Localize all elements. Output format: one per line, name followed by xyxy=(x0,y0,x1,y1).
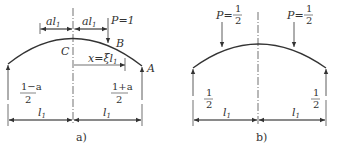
svg-text:2: 2 xyxy=(306,15,312,26)
span-right-b-label: l1 xyxy=(292,106,300,120)
load-label-p1: P=1 xyxy=(110,14,135,27)
caption-a: a) xyxy=(76,131,87,144)
svg-text:1: 1 xyxy=(206,87,212,98)
dim-al-left-label: al1 xyxy=(46,15,61,29)
caption-b: b) xyxy=(256,131,267,144)
span-right-a-label: l1 xyxy=(103,106,111,120)
svg-text:2: 2 xyxy=(116,94,122,105)
reaction-left-b-fraction: 1 2 xyxy=(204,87,213,110)
svg-text:1−a: 1−a xyxy=(21,81,42,92)
arch-curve-b xyxy=(193,44,326,68)
svg-text:1: 1 xyxy=(313,87,319,98)
svg-text:1: 1 xyxy=(235,3,241,14)
svg-text:2: 2 xyxy=(313,99,319,110)
point-c-label: C xyxy=(61,45,70,58)
arch-influence-diagram: al1 al1 P=1 B C A x=ξl1 1−a 2 1+a 2 xyxy=(0,0,355,152)
svg-text:2: 2 xyxy=(235,15,241,26)
point-b-label: B xyxy=(115,37,124,50)
svg-text:1: 1 xyxy=(306,3,312,14)
reaction-left-a-fraction: 1−a 2 xyxy=(20,81,42,105)
load-left-b-prefix: P= xyxy=(215,9,233,22)
panel-a: al1 al1 P=1 B C A x=ξl1 1−a 2 1+a 2 xyxy=(8,8,155,144)
load-left-b-fraction: 1 2 xyxy=(233,3,242,26)
span-left-b-label: l1 xyxy=(223,106,231,120)
load-right-b-prefix: P= xyxy=(286,9,304,22)
reaction-right-b-fraction: 1 2 xyxy=(311,87,320,110)
svg-text:1+a: 1+a xyxy=(112,81,133,92)
reaction-right-a-fraction: 1+a 2 xyxy=(111,81,133,105)
span-left-a-label: l1 xyxy=(38,106,46,120)
load-right-b-fraction: 1 2 xyxy=(304,3,313,26)
svg-text:2: 2 xyxy=(206,99,212,110)
point-a-label: A xyxy=(146,62,155,75)
svg-text:2: 2 xyxy=(25,94,31,105)
dim-al-right-label: al1 xyxy=(82,15,97,29)
panel-b: P= 1 2 P= 1 2 1 2 1 2 xyxy=(193,3,326,144)
x-dim-label: x=ξl1 xyxy=(88,52,117,66)
